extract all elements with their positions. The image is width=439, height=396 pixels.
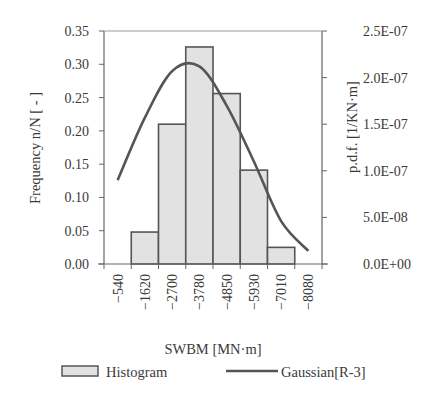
y2-axis-title: p.d.f. [1/KN·m] bbox=[344, 81, 360, 173]
y-axis-title: Frequency n/N [ - ] bbox=[27, 92, 43, 204]
y-tick-label: 0.10 bbox=[65, 190, 90, 205]
y-tick-label: 0.25 bbox=[65, 91, 90, 106]
y2-tick-label: 2.5E-07 bbox=[363, 24, 408, 39]
x-axis-title: SWBM [MN·m] bbox=[164, 341, 261, 357]
x-tick-label: −8080 bbox=[301, 274, 316, 310]
histogram-bar bbox=[213, 94, 240, 264]
x-tick-label: −5930 bbox=[247, 274, 262, 310]
y-tick-label: 0.00 bbox=[65, 257, 90, 272]
y2-tick-label: 1.5E-07 bbox=[363, 117, 408, 132]
y2-tick-label: 5.0E-08 bbox=[363, 210, 408, 225]
legend-gaussian-label: Gaussian[R-3] bbox=[281, 364, 366, 380]
y-tick-label: 0.35 bbox=[65, 24, 90, 39]
x-tick-label: −1620 bbox=[138, 274, 153, 310]
x-tick-label: −2700 bbox=[165, 274, 180, 310]
histogram-bars bbox=[131, 47, 295, 264]
y2-tick-label: 1.0E-07 bbox=[363, 164, 408, 179]
y-tick-label: 0.20 bbox=[65, 124, 90, 139]
x-tick-label: −3780 bbox=[192, 274, 207, 310]
x-tick-label: −7010 bbox=[274, 274, 289, 310]
legend: Histogram Gaussian[R-3] bbox=[62, 364, 366, 380]
y-tick-label: 0.05 bbox=[65, 224, 90, 239]
histogram-bar bbox=[159, 124, 186, 264]
chart: 0.000.050.100.150.200.250.300.35 0.0E+00… bbox=[0, 0, 439, 396]
y2-tick-labels: 0.0E+005.0E-081.0E-071.5E-072.0E-072.5E-… bbox=[363, 24, 411, 272]
x-tick-label: −540 bbox=[111, 274, 126, 303]
histogram-bar bbox=[186, 47, 213, 264]
histogram-bar bbox=[268, 247, 295, 264]
legend-histogram-label: Histogram bbox=[106, 364, 168, 380]
y-tick-labels: 0.000.050.100.150.200.250.300.35 bbox=[65, 24, 90, 272]
histogram-bar bbox=[131, 232, 158, 264]
legend-histogram-swatch bbox=[62, 366, 98, 376]
y-tick-label: 0.15 bbox=[65, 157, 90, 172]
y-tick-label: 0.30 bbox=[65, 57, 90, 72]
y2-tick-label: 2.0E-07 bbox=[363, 71, 408, 86]
x-tick-label: −4850 bbox=[220, 274, 235, 310]
y2-tick-label: 0.0E+00 bbox=[363, 257, 411, 272]
x-tick-labels: −540−1620−2700−3780−4850−5930−7010−8080 bbox=[111, 274, 317, 310]
